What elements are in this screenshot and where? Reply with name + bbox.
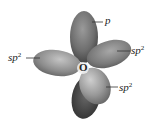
p-orbital-label: p [105, 15, 111, 26]
sp2-left-label-sup: 2 [18, 51, 22, 59]
p-label-text: p [105, 14, 111, 26]
sp2-left-label: sp2 [8, 52, 21, 63]
sp2-lower-label-base: sp [119, 81, 129, 93]
orbital-diagram: O p sp2 sp2 sp2 [0, 0, 156, 128]
sp2-left-label-base: sp [8, 51, 18, 63]
sp2-right-label: sp2 [131, 45, 144, 56]
center-atom-label: O [79, 62, 88, 73]
orbital-drawing [0, 0, 156, 128]
sp2-right-label-base: sp [131, 44, 141, 56]
sp2-lower-label-sup: 2 [129, 81, 133, 89]
sp2-right-label-sup: 2 [141, 44, 145, 52]
sp2-lower-label: sp2 [119, 82, 132, 93]
